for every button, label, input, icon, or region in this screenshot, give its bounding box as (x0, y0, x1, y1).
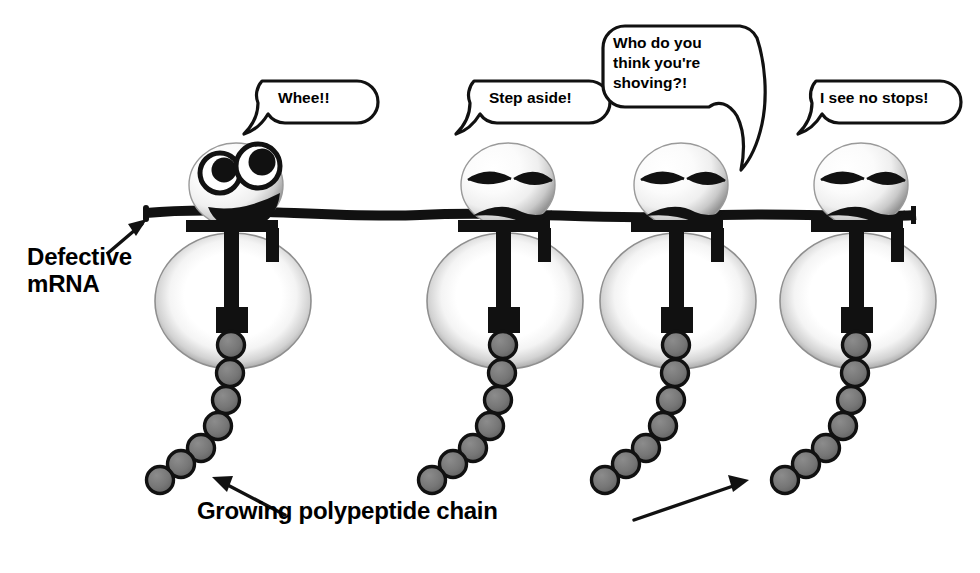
ribosome-group-3 (592, 26, 766, 494)
speech-bubble-text-4: I see no stops! (820, 88, 929, 108)
speech-bubble-text-1: Whee!! (278, 88, 330, 108)
ribosome-group-4 (772, 81, 962, 494)
growing-polypeptide-chain-label: Growing polypeptide chain (197, 497, 498, 524)
figure-canvas: Defective mRNA Growing polypeptide chain… (0, 0, 980, 573)
translation-diagram (0, 0, 980, 573)
chain-pointer-arrow-right (634, 475, 749, 520)
ribosome-group-2 (419, 81, 611, 494)
ribosome-group-1 (147, 81, 379, 494)
speech-bubble-text-3: Who do you think you're shoving?! (613, 33, 702, 92)
defective-mrna-label: Defective mRNA (27, 243, 132, 298)
speech-bubble-text-2: Step aside! (489, 88, 572, 108)
